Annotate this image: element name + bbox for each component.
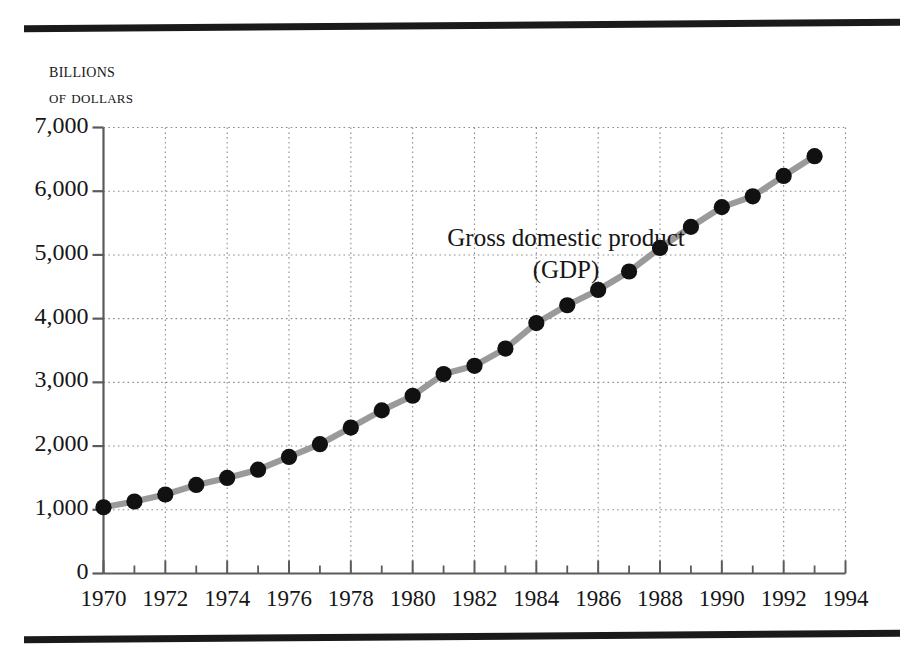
series-data-point (806, 148, 822, 164)
axis-lines (104, 128, 846, 574)
series-annotation-line-1: Gross domestic product (426, 222, 706, 254)
series-data-point (776, 168, 792, 184)
series-data-point (559, 297, 575, 313)
x-tick-label: 1994 (806, 586, 886, 612)
series-data-point (188, 477, 204, 493)
series-polyline (104, 156, 815, 507)
series-data-point (219, 470, 235, 486)
y-tick-label: 3,000 (0, 366, 89, 393)
series-data-point (281, 449, 297, 465)
gdp-line-chart: 01,0002,0003,0004,0005,0006,0007,000 197… (0, 0, 918, 651)
series-data-point (250, 462, 266, 478)
series-data-point (435, 366, 451, 382)
grid-lines (104, 128, 846, 574)
series-data-point (745, 188, 761, 204)
y-tick-label: 7,000 (0, 112, 89, 139)
y-tick-label: 6,000 (0, 175, 89, 202)
series-data-point (126, 493, 142, 509)
series-annotation: Gross domestic product (GDP) (426, 222, 706, 285)
series-data-point (157, 486, 173, 502)
series-data-point (374, 402, 390, 418)
series-annotation-line-2: (GDP) (426, 254, 706, 286)
series-data-point (497, 340, 513, 356)
series-data-point (312, 436, 328, 452)
series-data-point (405, 388, 421, 404)
series-data-point (528, 315, 544, 331)
y-tick-label: 1,000 (0, 494, 89, 521)
series-data-point (95, 499, 111, 515)
series-data-point (466, 358, 482, 374)
y-tick-label: 4,000 (0, 303, 89, 330)
series-data-point (343, 419, 359, 435)
y-tick-label: 2,000 (0, 430, 89, 457)
series-line (104, 156, 815, 507)
series-markers (95, 148, 822, 515)
chart-canvas (0, 0, 918, 651)
series-data-point (714, 199, 730, 215)
y-tick-label: 5,000 (0, 239, 89, 266)
y-tick-label: 0 (0, 558, 89, 585)
axis-ticks (93, 128, 846, 574)
